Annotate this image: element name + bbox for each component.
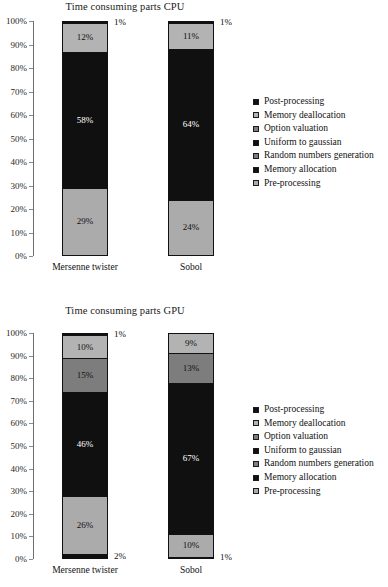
legend-label: Pre-processing	[264, 487, 320, 497]
segment-value-label: 64%	[183, 120, 200, 129]
legend-item[interactable]: Memory deallocation	[253, 109, 374, 123]
legend-label: Post-processing	[264, 97, 324, 107]
y-tick-label: 50%	[11, 134, 28, 143]
bar-segment[interactable]: 1%	[62, 333, 108, 335]
bar-segment[interactable]: 1%	[168, 557, 214, 559]
legend-item[interactable]: Option valuation	[253, 122, 374, 136]
category-label: Mersenne twister	[52, 262, 118, 272]
y-tick	[29, 115, 33, 116]
y-tick-label: 80%	[11, 374, 28, 383]
segment-value-label: 10%	[183, 541, 200, 550]
y-axis-line-cpu	[33, 21, 34, 256]
bar-segment[interactable]: 2%	[62, 554, 108, 559]
y-tick-label: 30%	[11, 181, 28, 190]
legend-swatch-icon	[253, 153, 259, 159]
legend-item[interactable]: Random numbers generation	[253, 149, 374, 163]
bar-segment[interactable]: 10%	[62, 335, 108, 358]
bar-segment[interactable]: 64%	[168, 49, 214, 199]
y-tick	[29, 333, 33, 334]
bar-segment[interactable]: 26%	[62, 496, 108, 555]
segment-value-label: 1%	[220, 18, 232, 27]
legend-label: Memory allocation	[264, 473, 337, 483]
legend-label: Random numbers generation	[264, 151, 374, 161]
chart-title-gpu: Time consuming parts GPU	[0, 305, 250, 316]
y-tick-label: 60%	[11, 419, 28, 428]
y-tick-label: 90%	[11, 40, 28, 49]
y-tick	[29, 446, 33, 447]
y-tick-label: 20%	[11, 509, 28, 518]
legend-item[interactable]: Post-processing	[253, 95, 374, 109]
bar-segment[interactable]: 67%	[168, 383, 214, 534]
y-tick	[29, 491, 33, 492]
legend-label: Random numbers generation	[264, 459, 374, 469]
legend-label: Memory allocation	[264, 165, 337, 175]
y-tick	[29, 256, 33, 257]
legend-item[interactable]: Uniform to gaussian	[253, 444, 374, 458]
legend-item[interactable]: Memory deallocation	[253, 417, 374, 431]
y-tick	[29, 469, 33, 470]
stacked-bar[interactable]: 24%64%11%1%Sobol	[168, 21, 214, 256]
chart-gpu: Time consuming parts GPU 100%90%80%70%60…	[0, 290, 388, 587]
legend-item[interactable]: Pre-processing	[253, 485, 374, 499]
legend-item[interactable]: Option valuation	[253, 430, 374, 444]
y-tick-label: 70%	[11, 396, 28, 405]
segment-value-label: 12%	[77, 33, 94, 42]
bar-segment[interactable]: 46%	[62, 392, 108, 496]
legend-swatch-icon	[253, 99, 259, 105]
legend-item[interactable]: Pre-processing	[253, 177, 374, 191]
segment-value-label: 15%	[77, 371, 94, 380]
legend-item[interactable]: Memory allocation	[253, 471, 374, 485]
legend-swatch-icon	[253, 167, 259, 173]
y-tick	[29, 514, 33, 515]
stacked-bar[interactable]: 2%26%46%15%10%1%Mersenne twister	[62, 333, 108, 559]
y-tick	[29, 378, 33, 379]
bar-segment[interactable]: 24%	[168, 200, 214, 256]
legend-gpu: Post-processingMemory deallocationOption…	[253, 403, 374, 498]
legend-swatch-icon	[253, 407, 259, 413]
bar-segment[interactable]: 15%	[62, 358, 108, 392]
bar-segment[interactable]: 11%	[168, 23, 214, 49]
y-tick	[29, 209, 33, 210]
legend-swatch-icon	[253, 180, 259, 186]
legend-label: Pre-processing	[264, 179, 320, 189]
legend-label: Uniform to gaussian	[264, 138, 342, 148]
segment-value-label: 58%	[77, 116, 94, 125]
legend-item[interactable]: Memory allocation	[253, 163, 374, 177]
stacked-bar[interactable]: 1%10%67%13%9%Sobol	[168, 333, 214, 559]
y-tick	[29, 21, 33, 22]
legend-swatch-icon	[253, 420, 259, 426]
bar-segment[interactable]: 10%	[168, 534, 214, 557]
y-tick-label: 60%	[11, 111, 28, 120]
y-tick-label: 40%	[11, 464, 28, 473]
legend-item[interactable]: Uniform to gaussian	[253, 136, 374, 150]
legend-label: Option valuation	[264, 124, 328, 134]
legend-item[interactable]: Post-processing	[253, 403, 374, 417]
legend-label: Memory deallocation	[264, 111, 346, 121]
stacked-bar[interactable]: 29%58%12%1%Mersenne twister	[62, 21, 108, 256]
segment-value-label: 46%	[77, 440, 94, 449]
y-axis-line-gpu	[33, 333, 34, 559]
legend-swatch-icon	[253, 140, 259, 146]
legend-swatch-icon	[253, 488, 259, 494]
legend-label: Post-processing	[264, 405, 324, 415]
bar-segment[interactable]: 1%	[168, 21, 214, 23]
y-tick-label: 100%	[6, 329, 27, 338]
bar-segment[interactable]: 9%	[168, 333, 214, 353]
y-tick-label: 10%	[11, 228, 28, 237]
bar-segment[interactable]: 29%	[62, 188, 108, 256]
legend-cpu: Post-processingMemory deallocationOption…	[253, 95, 374, 190]
segment-value-label: 26%	[77, 521, 94, 530]
bar-segment[interactable]: 13%	[168, 353, 214, 382]
category-label: Sobol	[180, 262, 202, 272]
bar-segment[interactable]: 12%	[62, 23, 108, 51]
category-label: Mersenne twister	[52, 565, 118, 575]
category-label: Sobol	[180, 565, 202, 575]
legend-label: Option valuation	[264, 432, 328, 442]
y-tick	[29, 139, 33, 140]
bar-segment[interactable]: 58%	[62, 52, 108, 188]
bar-segment[interactable]: 1%	[62, 21, 108, 23]
y-tick	[29, 162, 33, 163]
y-tick	[29, 233, 33, 234]
legend-item[interactable]: Random numbers generation	[253, 457, 374, 471]
segment-value-label: 2%	[114, 552, 126, 561]
